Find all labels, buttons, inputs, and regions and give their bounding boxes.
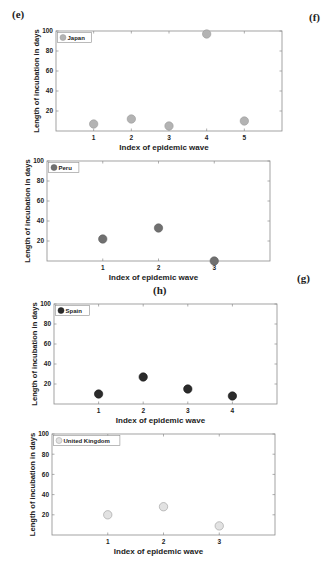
y-tick-label: 60 [42, 471, 50, 478]
y-tick-label: 100 [38, 430, 49, 437]
data-point [215, 522, 223, 530]
legend: United Kingdom [54, 436, 120, 446]
y-tick-label: 40 [42, 491, 50, 498]
x-tick-label: 1 [106, 538, 110, 545]
y-tick-label: 20 [42, 511, 50, 518]
legend-label: United Kingdom [64, 438, 110, 444]
y-tick-label: 80 [42, 451, 50, 458]
data-point [159, 503, 167, 511]
legend-marker-icon [56, 438, 62, 444]
y-axis-label: Length of incubation in days [28, 433, 37, 536]
data-point [104, 511, 112, 519]
x-tick-label: 3 [217, 538, 221, 545]
plot-frame [52, 434, 275, 535]
x-axis-label: Index of epidemic wave [114, 547, 204, 556]
chart-united-kingdom: 20406080100123Index of epidemic waveLeng… [0, 0, 328, 565]
x-tick-label: 2 [162, 538, 166, 545]
